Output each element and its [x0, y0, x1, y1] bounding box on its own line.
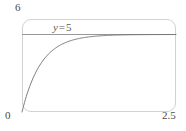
origin-label: 0 [5, 110, 11, 121]
chart-figure: 6 0 2.5 y = 5 [0, 0, 186, 131]
asymptote-annotation: y = 5 [53, 22, 71, 33]
y-axis-max-label: 6 [15, 2, 21, 13]
asymptote-value: 5 [66, 21, 72, 33]
plot-area [22, 19, 176, 112]
saturation-curve [22, 35, 176, 112]
